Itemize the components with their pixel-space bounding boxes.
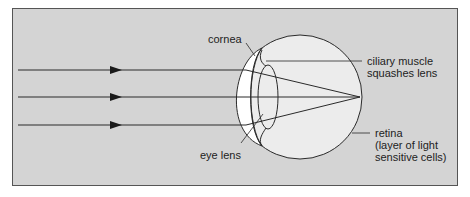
label-retina-3: sensitive cells) xyxy=(375,151,447,163)
label-ciliary-muscle-2: squashes lens xyxy=(367,67,437,79)
label-retina-2: (layer of light xyxy=(375,139,438,151)
label-retina: retina xyxy=(375,127,403,139)
label-ciliary-muscle: ciliary muscle xyxy=(367,55,433,67)
eye-diagram xyxy=(0,0,470,197)
label-eye-lens: eye lens xyxy=(200,149,241,161)
label-cornea: cornea xyxy=(208,33,242,45)
